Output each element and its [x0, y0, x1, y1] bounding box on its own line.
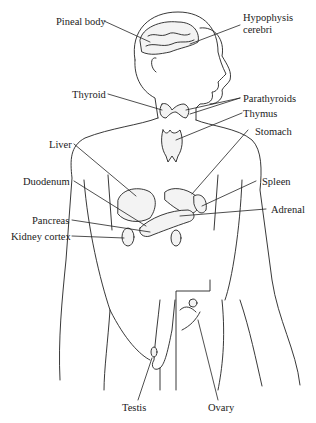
- label-kidney-cortex: Kidney cortex: [11, 231, 71, 242]
- label-cerebri: cerebri: [243, 24, 272, 35]
- label-pancreas: Pancreas: [32, 215, 69, 226]
- label-pineal-body: Pineal body: [56, 16, 106, 27]
- label-thymus: Thymus: [243, 108, 277, 119]
- label-stomach: Stomach: [255, 126, 292, 137]
- thyroid-gland-icon: [160, 103, 189, 118]
- label-spleen: Spleen: [262, 176, 291, 187]
- label-liver: Liver: [49, 139, 72, 150]
- label-parathyroids: Parathyroids: [243, 93, 296, 104]
- body-outline-drawing: [0, 0, 316, 423]
- endocrine-diagram: Pineal body Hypophysis cerebri Thyroid P…: [0, 0, 316, 423]
- ovary-icon: [189, 299, 197, 307]
- kidney-left-icon: [122, 228, 134, 246]
- label-adrenal: Adrenal: [271, 204, 305, 215]
- label-ovary: Ovary: [208, 402, 234, 413]
- label-testis: Testis: [122, 402, 146, 413]
- brain-icon: [140, 22, 198, 55]
- label-thyroid: Thyroid: [72, 89, 106, 100]
- label-hypophysis: Hypophysis: [243, 12, 293, 23]
- liver-icon: [118, 189, 155, 222]
- thymus-gland-icon: [162, 130, 183, 162]
- label-duodenum: Duodenum: [23, 176, 70, 187]
- testis-icon: [151, 347, 157, 357]
- kidney-right-icon: [171, 230, 181, 246]
